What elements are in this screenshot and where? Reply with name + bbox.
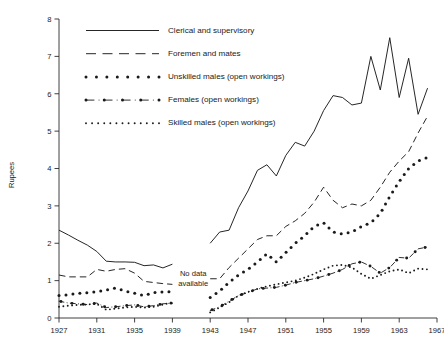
series-marker-fine-dot (89, 303, 91, 305)
legend-swatch-fine-dot (97, 122, 99, 124)
series-marker-fine-dot (409, 271, 411, 273)
legend-swatch-dot (95, 75, 98, 78)
series-marker-dot (248, 267, 251, 270)
series-marker-square-dot (378, 271, 381, 274)
x-tick-label: 1939 (164, 326, 181, 335)
series-marker-fine-dot (332, 265, 334, 267)
series-marker-square-dot (405, 257, 408, 260)
series-marker-dot (264, 253, 267, 256)
series-marker-dot (113, 287, 116, 290)
series-marker-fine-dot (113, 308, 115, 310)
y-tick-label: 6 (47, 90, 51, 99)
legend-swatch-dashdot-marker (103, 99, 106, 102)
legend-swatch-fine-dot (91, 122, 93, 124)
x-tick-label: 1935 (126, 326, 143, 335)
series-marker-dot (259, 258, 262, 261)
series-marker-fine-dot (336, 264, 338, 266)
legend-swatch-dot (105, 75, 108, 78)
series-marker-fine-dot (286, 281, 288, 283)
legend-label: Clerical and supervisory (168, 26, 255, 35)
series-marker-fine-dot (360, 273, 362, 275)
series-marker-dot (359, 225, 362, 228)
series-marker-fine-dot (101, 306, 103, 308)
y-tick-label: 0 (47, 314, 51, 323)
series-marker-fine-dot (170, 302, 172, 304)
series-marker-dot (407, 167, 410, 170)
series-marker-fine-dot (388, 271, 390, 273)
x-tick-label: 1951 (277, 326, 294, 335)
series-marker-square-dot (114, 305, 117, 308)
legend-swatch-dashdot-marker (121, 99, 124, 102)
legend-swatch-dot (147, 75, 150, 78)
series-marker-fine-dot (340, 264, 342, 266)
series-marker-fine-dot (97, 304, 99, 306)
series-marker-fine-dot (76, 304, 78, 306)
series-marker-fine-dot (148, 306, 150, 308)
series-marker-square-dot (327, 273, 330, 276)
y-tick-label: 7 (47, 52, 51, 61)
series-marker-dot (58, 294, 61, 297)
series-marker-dot (384, 203, 387, 206)
series-marker-dot (71, 293, 74, 296)
series-marker-fine-dot (291, 280, 293, 282)
rupees-wage-line-chart: 0123456781927193119351939194319471951195… (0, 0, 444, 354)
series-marker-fine-dot (58, 306, 60, 308)
series-marker-fine-dot (417, 268, 419, 270)
legend-swatch-fine-dot (85, 122, 87, 124)
series-marker-fine-dot (307, 275, 309, 277)
series-marker-fine-dot (269, 285, 271, 287)
series-marker-dot (381, 209, 384, 212)
legend-swatch-dashdot-marker (158, 99, 161, 102)
series-marker-fine-dot (105, 308, 107, 310)
series-marker-fine-dot (353, 268, 355, 270)
series-marker-square-dot (424, 246, 427, 249)
x-tick-label: 1955 (315, 326, 332, 335)
series-marker-dot (92, 291, 95, 294)
legend-label: Skilled males (open workings) (168, 118, 276, 127)
legend-swatch-fine-dot (115, 122, 117, 124)
series-marker-dot (399, 179, 402, 182)
series-marker-dot (209, 296, 212, 299)
series-marker-dot (231, 279, 234, 282)
series-marker-fine-dot (93, 303, 95, 305)
series-marker-fine-dot (252, 289, 254, 291)
legend-swatch-fine-dot (103, 122, 105, 124)
legend-swatch-dot (85, 75, 88, 78)
series-marker-dot (366, 223, 369, 226)
series-marker-fine-dot (319, 270, 321, 272)
series-marker-square-dot (82, 303, 85, 306)
series-marker-dot (242, 271, 245, 274)
series-marker-fine-dot (213, 309, 215, 311)
no-data-note-line1: No data (180, 269, 207, 278)
series-marker-fine-dot (144, 307, 146, 309)
series-marker-fine-dot (166, 303, 168, 305)
series-marker-dot (133, 292, 136, 295)
series-marker-fine-dot (232, 298, 234, 300)
x-tick-label: 1947 (240, 326, 257, 335)
legend-swatch-fine-dot (109, 122, 111, 124)
series-marker-dot (126, 290, 129, 293)
series-marker-fine-dot (380, 274, 382, 276)
legend-swatch-dashdot-marker (139, 99, 142, 102)
series-marker-dot (106, 288, 109, 291)
series-marker-fine-dot (221, 305, 223, 307)
series-marker-dot (340, 232, 343, 235)
legend-label: Foremen and mates (168, 49, 240, 58)
legend-swatch-dot (126, 75, 129, 78)
legend-label: Females (open workings) (168, 95, 259, 104)
series-marker-dot (412, 163, 415, 166)
series-marker-dot (64, 294, 67, 297)
series-marker-fine-dot (273, 284, 275, 286)
series-marker-square-dot (395, 259, 398, 262)
series-marker-fine-dot (217, 307, 219, 309)
series-marker-fine-dot (356, 270, 358, 272)
legend-swatch-fine-dot (140, 122, 142, 124)
series-marker-dot (153, 291, 156, 294)
series-marker-square-dot (414, 250, 417, 253)
series-marker-dot (333, 231, 336, 234)
series-marker-fine-dot (140, 306, 142, 308)
series-marker-dot (305, 232, 308, 235)
series-marker-dot (147, 293, 150, 296)
legend-swatch-fine-dot (128, 122, 130, 124)
series-marker-fine-dot (118, 307, 120, 309)
